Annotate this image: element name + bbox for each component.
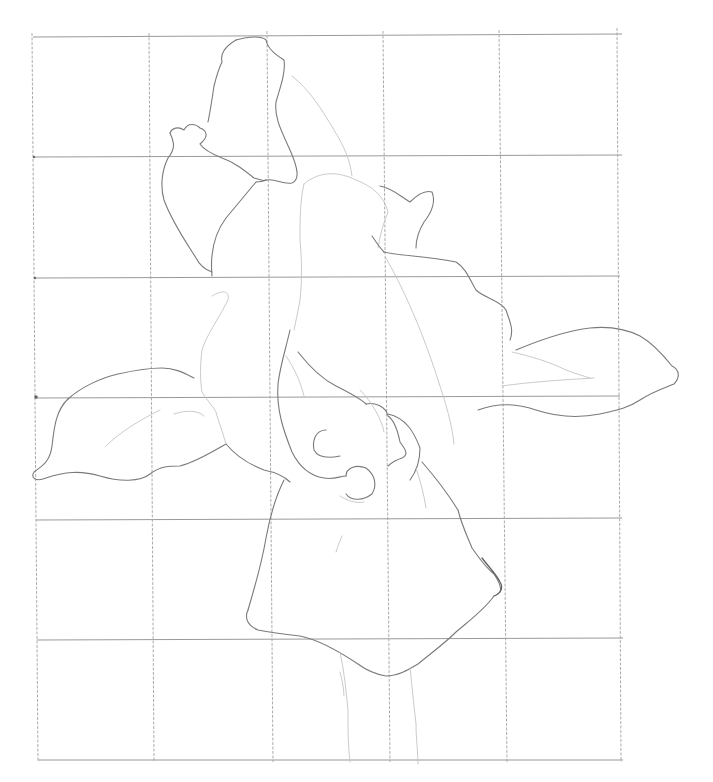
top-petal-left-edge	[208, 40, 236, 122]
vein-cross	[372, 236, 384, 252]
lower-petal-mark	[336, 536, 342, 552]
lower-petal-left	[248, 480, 284, 610]
stem-left	[340, 652, 350, 762]
inner-lines	[286, 356, 304, 396]
center-lip-inner	[298, 352, 366, 404]
left-mid-petal-upper	[201, 292, 229, 444]
inner-lines-2	[360, 390, 384, 432]
left-leaf-bottom	[33, 399, 226, 480]
top-petal	[236, 37, 297, 183]
center-petal	[304, 174, 388, 248]
sketch-canvas	[0, 0, 713, 782]
right-upper-petal-top	[380, 186, 434, 248]
inner-curl	[314, 430, 341, 457]
left-petal-cap	[170, 125, 266, 181]
lower-petal-inner	[416, 468, 426, 508]
left-leaf-vein-2	[174, 411, 204, 416]
right-leaf	[478, 327, 678, 416]
right-leaf-vein	[512, 352, 590, 378]
top-petal-inner-vein	[292, 76, 352, 176]
lower-petal-bottom	[246, 596, 494, 676]
center-lip-curl	[366, 404, 406, 467]
flower-drawing	[33, 37, 679, 764]
left-leaf	[68, 368, 194, 399]
center-petal-left	[294, 184, 304, 330]
left-petal-inner	[212, 182, 256, 276]
right-upper-petal	[384, 252, 512, 340]
lower-petal-right	[422, 462, 501, 592]
right-upper-petal-vein	[386, 258, 454, 444]
right-leaf-vein-2	[502, 378, 594, 386]
stem-right	[410, 668, 418, 764]
stamen	[346, 466, 375, 499]
left-petal-body	[162, 133, 212, 272]
stem-mark	[340, 672, 344, 696]
left-mid-petal	[226, 444, 290, 482]
lower-petal-right-curl	[482, 558, 502, 596]
reference-grid	[32, 28, 623, 762]
